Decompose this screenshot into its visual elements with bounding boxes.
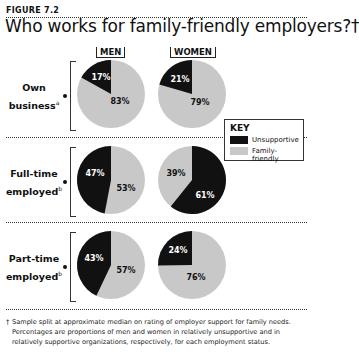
bracket-pointer xyxy=(63,265,67,269)
row-label-line1: Part-time xyxy=(4,251,64,266)
column-header-women: WOMEN xyxy=(170,47,216,58)
svg-text:79%: 79% xyxy=(190,98,209,107)
legend-label-family-friendly: Family-friendly xyxy=(252,147,303,163)
bracket xyxy=(70,61,76,131)
legend-key: KEY Unsupportive Family-friendly xyxy=(224,119,304,161)
svg-text:83%: 83% xyxy=(110,97,129,106)
legend-swatch-family-friendly xyxy=(230,147,248,155)
footnote-marker: b xyxy=(58,185,62,192)
footnote-marker: b xyxy=(58,270,62,277)
row-label-own-business: Own businessa xyxy=(4,80,64,113)
svg-text:76%: 76% xyxy=(186,273,205,282)
svg-text:61%: 61% xyxy=(195,191,214,200)
row-label-line2: business xyxy=(9,100,56,111)
figure-title: Who works for family-friendly employers?… xyxy=(5,16,359,36)
pie-part-time-men: 43% 57% xyxy=(77,231,145,299)
svg-text:17%: 17% xyxy=(91,73,110,82)
bracket-pointer xyxy=(63,94,67,98)
divider xyxy=(6,222,307,223)
svg-text:24%: 24% xyxy=(168,246,187,255)
footnote-text: Sample split at approximate median on ra… xyxy=(12,318,291,346)
svg-text:39%: 39% xyxy=(166,169,185,178)
row-label-part-time: Part-time employedb xyxy=(4,251,64,284)
bracket-pointer xyxy=(63,180,67,184)
svg-text:47%: 47% xyxy=(85,169,104,178)
pie-part-time-women: 24% 76% xyxy=(158,231,226,299)
footnote-marker: a xyxy=(56,99,60,106)
row-label-line2: employed xyxy=(6,186,58,197)
svg-text:43%: 43% xyxy=(84,254,103,263)
bracket xyxy=(70,232,76,302)
legend-swatch-unsupportive xyxy=(230,136,248,144)
figure-label: FIGURE 7.2 xyxy=(6,6,59,15)
pie-full-time-men: 47% 53% xyxy=(77,146,145,214)
row-label-line1: Own xyxy=(4,80,64,95)
bracket xyxy=(70,147,76,217)
column-header-men: MEN xyxy=(96,47,125,58)
footnote-bullet: † xyxy=(6,317,9,327)
svg-text:21%: 21% xyxy=(170,75,189,84)
legend-title: KEY xyxy=(230,123,250,133)
svg-text:57%: 57% xyxy=(116,266,135,275)
row-label-line2: employed xyxy=(6,271,58,282)
legend-label-unsupportive: Unsupportive xyxy=(252,136,299,144)
pie-own-business-men: 17% 83% xyxy=(77,60,145,128)
row-label-full-time: Full-time employedb xyxy=(4,166,64,199)
pie-own-business-women: 21% 79% xyxy=(158,60,226,128)
footnote: † Sample split at approximate median on … xyxy=(12,317,312,347)
svg-text:53%: 53% xyxy=(116,184,135,193)
pie-full-time-women: 39% 61% xyxy=(158,146,226,214)
row-label-line1: Full-time xyxy=(4,166,64,181)
divider xyxy=(6,309,307,310)
